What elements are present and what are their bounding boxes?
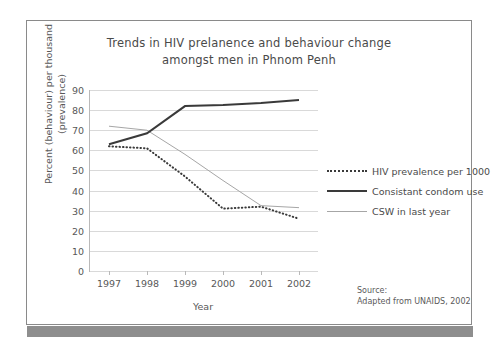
legend-swatch-dotted-line-icon xyxy=(327,166,367,176)
series-line-consistant-condom-use xyxy=(109,100,299,144)
series-line-csw-in-last-year xyxy=(109,126,299,207)
legend-swatch-thin-line-icon xyxy=(327,206,367,216)
source-note: Source: Adapted from UNAIDS, 2002 xyxy=(357,285,471,307)
chart-title: Trends in HIV prelanence and behaviour c… xyxy=(27,35,471,69)
y-axis-tick-label: 70 xyxy=(72,125,84,136)
y-axis-tick-label: 60 xyxy=(72,145,84,156)
chart-title-line-1: Trends in HIV prelanence and behaviour c… xyxy=(27,35,471,52)
y-axis-tick-label: 30 xyxy=(72,205,84,216)
chart-title-line-2: amongst men in Phnom Penh xyxy=(27,52,471,69)
y-axis-title-line-2: (prevalence) xyxy=(55,14,68,194)
legend-item-csw-in-last-year[interactable]: CSW in last year xyxy=(327,201,477,221)
y-axis-title-line-1: Percent (behaviour) per thousand xyxy=(42,14,55,194)
series-line-hiv-prevalence xyxy=(109,146,299,218)
legend-swatch-thick-line-icon xyxy=(327,186,367,196)
y-axis-tick-label: 10 xyxy=(72,245,84,256)
gridline: 0 xyxy=(90,271,318,272)
x-axis-tick-label: 2000 xyxy=(211,278,235,289)
source-label: Source: xyxy=(357,285,471,296)
bottom-accent-bar xyxy=(27,326,473,337)
x-axis-tick xyxy=(299,271,300,275)
x-axis-tick-label: 2001 xyxy=(249,278,273,289)
y-axis-tick-label: 80 xyxy=(72,105,84,116)
y-axis-tick-label: 40 xyxy=(72,185,84,196)
y-axis-tick-label: 20 xyxy=(72,225,84,236)
legend-label-consistant-condom-use: Consistant condom use xyxy=(372,186,483,197)
x-axis-title: Year xyxy=(89,301,317,312)
x-axis-tick xyxy=(185,271,186,275)
source-text: Adapted from UNAIDS, 2002 xyxy=(357,296,471,307)
legend-item-consistant-condom-use[interactable]: Consistant condom use xyxy=(327,181,477,201)
x-axis-tick-label: 1997 xyxy=(97,278,121,289)
x-axis-tick-label: 1999 xyxy=(173,278,197,289)
y-axis-tick-label: 90 xyxy=(72,85,84,96)
y-axis-title: Percent (behaviour) per thousand (preval… xyxy=(42,14,68,194)
plot-area: 0102030405060708090 19971998199920002001… xyxy=(89,90,318,272)
x-axis-tick-label: 1998 xyxy=(135,278,159,289)
x-axis-tick xyxy=(223,271,224,275)
legend-label-csw-in-last-year: CSW in last year xyxy=(372,206,450,217)
series-layer xyxy=(90,90,318,271)
x-axis-tick xyxy=(147,271,148,275)
y-axis-tick-label: 50 xyxy=(72,165,84,176)
legend-label-hiv-prevalence: HIV prevalence per 1000 xyxy=(372,166,490,177)
legend-item-hiv-prevalence[interactable]: HIV prevalence per 1000 xyxy=(327,161,477,181)
y-axis-tick-label: 0 xyxy=(78,266,84,277)
chart-legend: HIV prevalence per 1000 Consistant condo… xyxy=(327,161,477,221)
x-axis-tick-label: 2002 xyxy=(287,278,311,289)
x-axis-tick xyxy=(109,271,110,275)
figure-frame: Trends in HIV prelanence and behaviour c… xyxy=(26,20,472,325)
x-axis-tick xyxy=(261,271,262,275)
